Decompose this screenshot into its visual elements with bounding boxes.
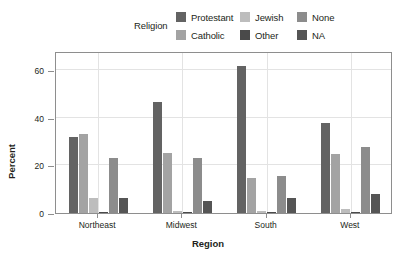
- bar-midwest-catholic: [163, 153, 172, 213]
- bar-south-none: [277, 176, 286, 213]
- x-tick-mark: [97, 214, 98, 218]
- bar-west-protestant: [321, 123, 330, 213]
- y-tick-mark: [48, 119, 54, 120]
- x-tick-label-west: West: [340, 220, 359, 230]
- y-axis: Percent 0204060: [0, 52, 55, 214]
- legend-label: Catholic: [191, 30, 225, 41]
- y-tick-label: 0: [39, 209, 44, 219]
- bar-midwest-protestant: [153, 102, 162, 213]
- y-axis-title: Percent: [6, 127, 17, 197]
- bar-northeast-catholic: [79, 134, 88, 213]
- x-tick-label-northeast: Northeast: [79, 220, 116, 230]
- bar-west-na: [371, 194, 380, 213]
- x-axis-title: Region: [0, 238, 416, 249]
- bar-northeast-other: [99, 212, 108, 213]
- legend-entry-none: None: [297, 8, 389, 26]
- bar-northeast-protestant: [69, 137, 78, 213]
- bar-south-jewish: [257, 211, 266, 213]
- gridline-horizontal: [56, 69, 391, 70]
- y-tick-mark: [48, 166, 54, 167]
- gridline-vertical: [182, 53, 183, 213]
- bar-south-catholic: [247, 178, 256, 213]
- legend-label: None: [312, 12, 334, 23]
- gridline-horizontal: [56, 164, 391, 165]
- bar-west-jewish: [341, 209, 350, 213]
- bar-west-other: [351, 212, 360, 213]
- legend-entry-na: NA: [297, 26, 389, 44]
- bar-midwest-none: [193, 158, 202, 213]
- y-tick-mark: [48, 214, 54, 215]
- legend-label: NA: [312, 30, 325, 41]
- legend-swatch-icon: [297, 30, 307, 40]
- bar-northeast-na: [119, 198, 128, 213]
- legend-title: Religion: [134, 20, 168, 31]
- legend-swatch-icon: [176, 12, 186, 22]
- x-tick-mark: [266, 214, 267, 218]
- x-tick-label-south: South: [255, 220, 277, 230]
- legend-label: Other: [255, 30, 278, 41]
- legend-swatch-icon: [240, 30, 250, 40]
- bar-midwest-other: [183, 212, 192, 213]
- x-tick-mark: [181, 214, 182, 218]
- legend-label: Jewish: [255, 12, 283, 23]
- y-tick-label: 60: [35, 66, 44, 76]
- x-axis: NortheastMidwestSouthWest: [55, 214, 392, 238]
- gridline-vertical: [351, 53, 352, 213]
- bar-south-protestant: [237, 66, 246, 213]
- plot-area: [55, 52, 392, 214]
- y-tick-label: 40: [35, 114, 44, 124]
- legend-column-3: NoneNA: [297, 8, 389, 44]
- bar-midwest-jewish: [173, 211, 182, 213]
- legend-swatch-icon: [240, 12, 250, 22]
- bar-west-none: [361, 147, 370, 213]
- bar-south-other: [267, 212, 276, 213]
- gridline-horizontal: [56, 117, 391, 118]
- chart-figure: Religion ProtestantCatholic JewishOther …: [0, 0, 416, 259]
- legend-swatch-icon: [176, 30, 186, 40]
- gridline-vertical: [98, 53, 99, 213]
- bar-northeast-jewish: [89, 198, 98, 213]
- gridline-vertical: [267, 53, 268, 213]
- y-tick-label: 20: [35, 161, 44, 171]
- x-tick-mark: [350, 214, 351, 218]
- bar-south-na: [287, 198, 296, 213]
- x-tick-label-midwest: Midwest: [166, 220, 197, 230]
- y-tick-mark: [48, 71, 54, 72]
- legend-swatch-icon: [297, 12, 307, 22]
- bar-northeast-none: [109, 158, 118, 213]
- bar-midwest-na: [203, 201, 212, 213]
- chart-legend: Religion ProtestantCatholic JewishOther …: [0, 8, 416, 48]
- bar-west-catholic: [331, 154, 340, 213]
- legend-label: Protestant: [191, 12, 233, 23]
